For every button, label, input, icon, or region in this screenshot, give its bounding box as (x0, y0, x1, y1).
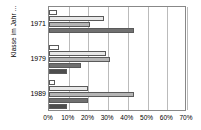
chart-container: Klasse im Jahr ... 197119791989 0%10%20%… (0, 0, 201, 130)
bar (49, 16, 104, 22)
bar-series-layer (49, 7, 185, 110)
bar (49, 63, 81, 69)
bar (49, 86, 88, 92)
category-label-column: 197119791989 (14, 6, 46, 114)
category-label: 1989 (16, 90, 46, 98)
bar-group (49, 80, 185, 110)
x-tick-label: 70% (174, 114, 198, 121)
category-label: 1971 (16, 20, 46, 28)
bar (49, 45, 59, 51)
bar (49, 69, 67, 75)
bar (49, 51, 106, 57)
bar (49, 92, 134, 98)
gridline (187, 7, 188, 110)
bar (49, 57, 110, 63)
plot-area (48, 6, 186, 111)
bar (49, 10, 57, 16)
bar-group (49, 45, 185, 75)
bar (49, 104, 67, 110)
bar (49, 98, 88, 104)
bar-group (49, 10, 185, 40)
category-label: 1979 (16, 55, 46, 63)
bar (49, 22, 90, 28)
x-axis-ticks: 0%10%20%30%40%50%60%70% (48, 112, 186, 126)
bar (49, 28, 134, 34)
bar (49, 80, 55, 86)
